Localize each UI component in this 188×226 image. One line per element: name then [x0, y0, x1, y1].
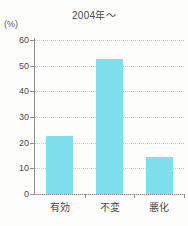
- x-tick-mark: [184, 194, 185, 198]
- y-tick-label: 40: [0, 86, 29, 96]
- x-tick-label: 悪化: [132, 199, 186, 214]
- y-tick-label: 0: [0, 189, 29, 199]
- y-axis-unit-label: (%): [4, 19, 18, 29]
- x-tick-mark: [85, 194, 86, 198]
- y-tick-label: 60: [0, 35, 29, 45]
- bar: [96, 59, 123, 194]
- y-tick-label: 30: [0, 112, 29, 122]
- chart-title: 2004年〜: [0, 7, 188, 22]
- x-tick-mark: [134, 194, 135, 198]
- plot-area: [35, 40, 184, 194]
- bar-chart: 2004年〜 (%) 0102030405060 有効不変悪化: [0, 0, 188, 226]
- gridline: [35, 194, 184, 195]
- x-tick-label: 不変: [83, 199, 137, 214]
- y-tick-mark: [30, 194, 35, 195]
- cropped-caption-row: [0, 220, 188, 226]
- x-tick-label: 有効: [33, 199, 87, 214]
- bar: [146, 157, 173, 194]
- y-tick-label: 10: [0, 163, 29, 173]
- y-tick-label: 50: [0, 61, 29, 71]
- y-tick-label: 20: [0, 138, 29, 148]
- bar: [46, 136, 73, 194]
